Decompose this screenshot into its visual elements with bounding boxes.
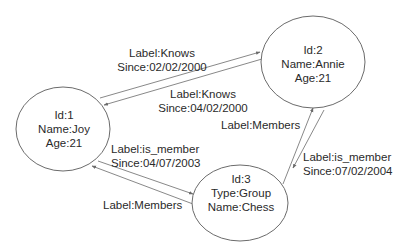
property-graph-diagram: Id:1 Name:Joy Age:21 Id:2 Name:Annie Age… <box>0 0 407 247</box>
edge-1-3-label: Label:is_member <box>111 143 199 155</box>
edge-3-1-label: Label:Members <box>103 199 183 211</box>
edge-2-3-since: Since:07/02/2004 <box>303 165 393 177</box>
node-3: Id:3 Type:Group Name:Chess <box>192 165 288 241</box>
edge-2-3-label: Label:is_member <box>303 151 391 163</box>
edge-2-1-since: Since:04/02/2000 <box>158 102 248 114</box>
node-2-age: Age:21 <box>295 72 331 84</box>
node-3-name: Name:Chess <box>208 201 275 213</box>
node-1-name: Name:Joy <box>38 123 90 135</box>
edge-1-3-since: Since:04/07/2003 <box>111 157 201 169</box>
node-3-id: Id:3 <box>231 173 250 185</box>
node-2-name: Name:Annie <box>281 58 344 70</box>
edge-2-1-label: Label:Knows <box>170 88 236 100</box>
edge-1-2-label: Label:Knows <box>129 47 195 59</box>
node-2: Id:2 Name:Annie Age:21 <box>261 16 365 108</box>
node-2-id: Id:2 <box>303 44 322 56</box>
node-1: Id:1 Name:Joy Age:21 <box>16 87 110 171</box>
node-3-type: Type:Group <box>211 187 271 199</box>
edge-3-2-label: Label:Members <box>221 119 301 131</box>
node-1-age: Age:21 <box>46 137 82 149</box>
edge-1-2-since: Since:02/02/2000 <box>117 61 207 73</box>
node-1-id: Id:1 <box>54 109 73 121</box>
